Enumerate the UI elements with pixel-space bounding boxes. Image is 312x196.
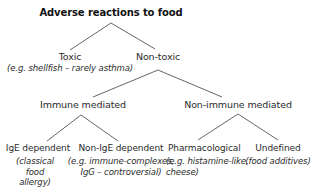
- node-immune-mediated: Immune mediated: [40, 99, 126, 110]
- node-non-toxic: Non-toxic: [136, 51, 180, 62]
- edge-immune-nonige: [81, 115, 118, 141]
- node-ige-dependent: IgE dependent: [6, 143, 70, 153]
- node-toxic-example: (e.g. shellfish – rarely asthma): [7, 63, 133, 74]
- node-non-ige-dependent: Non-IgE dependent: [78, 143, 163, 153]
- node-pharmacological: Pharmacological: [168, 143, 241, 153]
- diagram-title: Adverse reactions to food: [39, 7, 182, 18]
- node-undefined-example: (food additives): [245, 156, 310, 167]
- edge-nonimmune-pharm: [198, 114, 238, 140]
- edge-nontoxic-nonimmune: [158, 70, 222, 97]
- edge-root-nontoxic: [111, 23, 155, 49]
- edge-nontoxic-immune: [93, 70, 158, 97]
- node-pharmacological-example: (e.g. histamine-like, cheese): [166, 156, 249, 177]
- node-undefined: Undefined: [255, 143, 300, 153]
- node-non-ige-example: (e.g. immune-complexes, IgG – controvers…: [68, 156, 174, 177]
- edge-immune-ige: [47, 115, 81, 141]
- edge-root-toxic: [70, 23, 111, 50]
- edge-nonimmune-undefined: [238, 114, 278, 140]
- node-ige-example: (classical food allergy): [16, 156, 54, 188]
- node-toxic: Toxic: [59, 51, 82, 62]
- node-non-immune-mediated: Non-immune mediated: [184, 99, 292, 110]
